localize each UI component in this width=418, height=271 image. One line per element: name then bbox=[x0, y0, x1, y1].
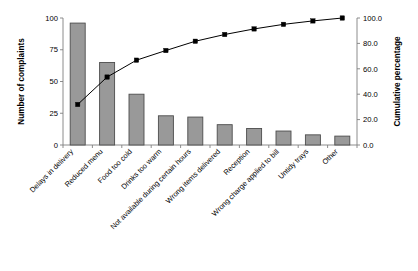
right-axis: 0.020.040.060.080.0100.0 bbox=[357, 14, 382, 150]
category-axis-labels: Delays in deliveryReduced menuFood too c… bbox=[28, 147, 340, 232]
cumulative-marker bbox=[281, 22, 285, 26]
left-axis-tick-label: 50 bbox=[50, 77, 58, 86]
left-axis-tick-label: 0 bbox=[54, 141, 58, 150]
category-label: Other bbox=[320, 147, 340, 167]
cumulative-line-series bbox=[76, 16, 345, 107]
right-axis-tick-label: 0.0 bbox=[363, 141, 374, 150]
right-axis-tick-label: 20.0 bbox=[363, 115, 378, 124]
bar-series bbox=[70, 23, 350, 145]
bar bbox=[335, 136, 350, 145]
right-axis-title: Cumulative percentage bbox=[393, 36, 402, 127]
cumulative-marker bbox=[134, 58, 138, 62]
right-axis-tick-label: 100.0 bbox=[363, 14, 382, 23]
bar bbox=[70, 23, 85, 145]
cumulative-marker bbox=[252, 27, 256, 31]
cumulative-marker bbox=[223, 32, 227, 36]
chart-canvas: 0255075100 0.020.040.060.080.0100.0 Dela… bbox=[0, 0, 418, 271]
left-axis-tick-label: 25 bbox=[50, 109, 58, 118]
cumulative-marker bbox=[164, 48, 168, 52]
cumulative-marker bbox=[340, 16, 344, 20]
cumulative-marker bbox=[311, 19, 315, 23]
left-axis-tick-label: 75 bbox=[50, 45, 58, 54]
bar bbox=[247, 128, 262, 145]
bar bbox=[305, 135, 320, 145]
bar bbox=[217, 125, 232, 145]
left-axis-tick-label: 100 bbox=[45, 14, 58, 23]
bar bbox=[129, 94, 144, 145]
cumulative-marker bbox=[193, 39, 197, 43]
left-axis-title: Number of complaints bbox=[17, 38, 26, 125]
bar bbox=[158, 116, 173, 145]
cumulative-marker bbox=[105, 75, 109, 79]
cumulative-line bbox=[78, 18, 343, 104]
category-label: Reception bbox=[222, 147, 252, 177]
pareto-chart: 0255075100 0.020.040.060.080.0100.0 Dela… bbox=[0, 0, 418, 271]
right-axis-tick-label: 60.0 bbox=[363, 65, 378, 74]
cumulative-marker bbox=[76, 102, 80, 106]
bar bbox=[188, 117, 203, 145]
category-label: Wrong items delivered bbox=[164, 147, 222, 205]
right-axis-tick-label: 40.0 bbox=[363, 90, 378, 99]
right-axis-tick-label: 80.0 bbox=[363, 39, 378, 48]
bar bbox=[276, 131, 291, 145]
category-label: Untidy trays bbox=[276, 147, 310, 181]
